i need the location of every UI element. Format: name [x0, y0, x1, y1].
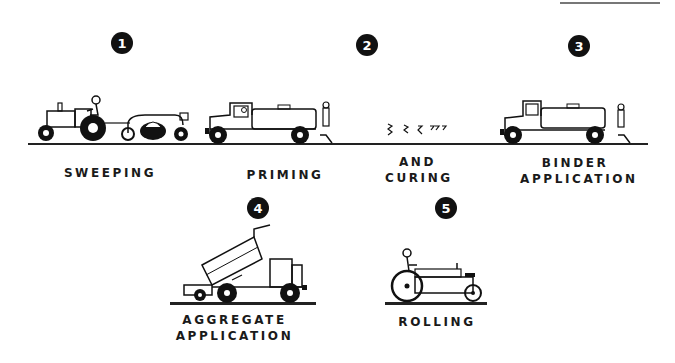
step-5-badge: 5	[435, 197, 457, 219]
step-label-binder: BINDER	[520, 155, 630, 172]
step-label-aggregate-application: APPLICATION	[172, 328, 297, 345]
top-edge-line	[560, 2, 660, 4]
step-3-badge: 3	[568, 35, 590, 57]
step-2-badge: 2	[356, 34, 378, 56]
step-label-priming: PRIMING	[235, 167, 335, 184]
step-label-curing: CURING	[385, 170, 450, 187]
tractor-broom-illustration	[35, 93, 195, 145]
curing-vapor-icon	[385, 122, 455, 138]
step-1-badge: 1	[111, 32, 133, 54]
step-4-badge: 4	[247, 197, 269, 219]
distributor-truck-binder	[495, 98, 625, 146]
step-label-and: AND	[385, 154, 450, 171]
dump-truck-illustration	[182, 225, 312, 303]
step-label-binder-application: APPLICATION	[520, 171, 630, 188]
distributor-truck-priming	[200, 95, 330, 145]
step-label-rolling: ROLLING	[392, 314, 482, 331]
step-label-sweeping: SWEEPING	[55, 165, 165, 182]
roller-illustration	[385, 243, 490, 303]
step-label-aggregate: AGGREGATE	[172, 312, 297, 329]
